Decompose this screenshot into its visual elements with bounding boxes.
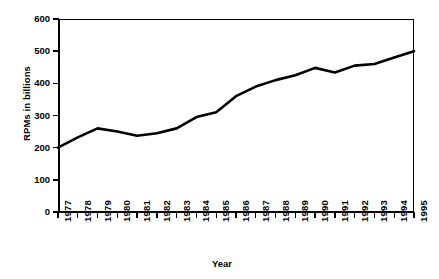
x-axis-title: Year — [0, 258, 439, 269]
data-series-line — [0, 0, 439, 279]
x-axis-title-text: Year — [212, 258, 232, 269]
line-chart: RPMs in billions 0100200300400500600 197… — [0, 0, 439, 279]
